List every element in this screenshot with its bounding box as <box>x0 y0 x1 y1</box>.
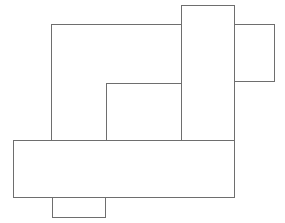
rect-inner <box>106 83 182 145</box>
rect-tall-vertical <box>181 5 235 160</box>
figure-canvas <box>0 0 285 223</box>
rect-wide-horizontal <box>13 140 235 198</box>
